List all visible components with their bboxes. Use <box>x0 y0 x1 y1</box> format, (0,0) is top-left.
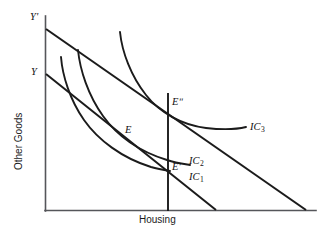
indifference-curve-ic2 <box>78 50 190 165</box>
label-ic2: IC2 <box>189 156 204 167</box>
label-ic3-subscript: 3 <box>261 125 265 134</box>
x-axis-title: Housing <box>139 215 176 225</box>
label-equilibrium-e-double-prime: Eʺ <box>172 97 183 108</box>
plot-canvas <box>0 0 330 235</box>
label-ic1-subscript: 1 <box>200 175 204 184</box>
indifference-curve-ic1 <box>61 57 170 171</box>
label-y-prime-intercept: Y' <box>30 12 38 23</box>
label-ic1: IC1 <box>189 172 204 183</box>
label-ic3: IC3 <box>250 122 265 133</box>
label-equilibrium-e: E <box>125 125 132 136</box>
label-equilibrium-e-prime: E' <box>172 162 181 173</box>
label-ic2-text: IC <box>189 155 200 166</box>
label-y-intercept: Y <box>31 67 37 78</box>
label-ic2-subscript: 2 <box>200 159 204 168</box>
label-ic3-text: IC <box>250 121 261 132</box>
y-axis-title: Other Goods <box>14 113 24 170</box>
budget-line-y <box>46 74 216 210</box>
indifference-curve-figure: Other Goods Housing Y' Y E E' Eʺ IC1 IC2… <box>0 0 330 235</box>
label-ic1-text: IC <box>189 171 200 182</box>
indifference-curve-ic3 <box>120 32 246 129</box>
